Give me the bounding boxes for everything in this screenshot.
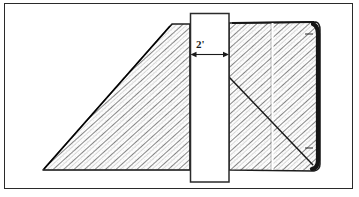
engineering-diagram: [0, 0, 359, 197]
left-embankment-triangle: [43, 24, 190, 170]
figure-page: 2': [0, 0, 359, 197]
dimension-label: 2': [196, 38, 205, 50]
right-fill-rectangle: [229, 22, 320, 171]
caption-fragment: [6, 190, 346, 197]
